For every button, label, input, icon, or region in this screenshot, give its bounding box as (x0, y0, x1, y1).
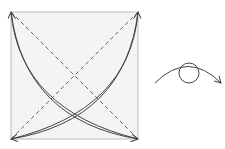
turn-over-symbol (155, 63, 221, 83)
paper-square (11, 12, 138, 139)
fold-diagram (0, 0, 225, 149)
turn-over-arc-arrow (155, 67, 221, 84)
